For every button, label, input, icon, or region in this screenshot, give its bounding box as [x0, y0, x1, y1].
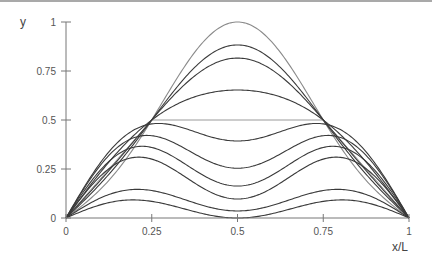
series-curve-8	[66, 157, 409, 218]
x-tick-label: 0.5	[231, 226, 245, 237]
x-tick-label: 0	[63, 226, 69, 237]
ticks-group: 00.250.50.75100.250.50.751	[37, 17, 413, 237]
chart: 00.250.50.75100.250.50.751 y x/L	[0, 0, 432, 266]
y-tick-label: 0.5	[42, 115, 56, 126]
x-tick-label: 1	[406, 226, 412, 237]
y-axis-label: y	[20, 15, 26, 29]
x-tick-label: 0.25	[142, 226, 162, 237]
y-tick-label: 0.75	[37, 66, 57, 77]
series-curve-6	[66, 135, 409, 218]
x-axis-label: x/L	[392, 240, 408, 254]
series-curve-9	[66, 189, 409, 218]
x-tick-label: 0.75	[314, 226, 334, 237]
initial-shape-line	[66, 120, 409, 218]
y-tick-label: 0	[50, 213, 56, 224]
series-curve-3	[66, 58, 409, 218]
y-tick-label: 0.25	[37, 164, 57, 175]
y-tick-label: 1	[50, 17, 56, 28]
curves-group	[66, 22, 409, 218]
series-curve-7	[66, 146, 409, 218]
